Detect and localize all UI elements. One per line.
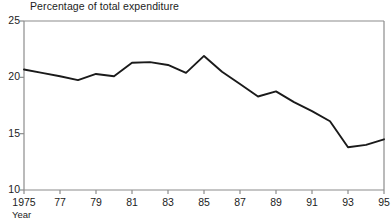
chart-plot-area — [0, 0, 392, 224]
x-tick-label: 91 — [306, 196, 318, 208]
x-tick-label: 87 — [234, 196, 246, 208]
x-tick-label: 95 — [378, 196, 390, 208]
y-tick-label: 25 — [0, 14, 20, 26]
axis-frame — [24, 21, 384, 190]
y-tick-label: 10 — [0, 183, 20, 195]
x-tick-label: 81 — [126, 196, 138, 208]
x-tick-label: 93 — [342, 196, 354, 208]
y-tick-label: 20 — [0, 70, 20, 82]
x-tick-label: 83 — [162, 196, 174, 208]
y-tick-label: 15 — [0, 127, 20, 139]
x-axis-title: Year — [12, 209, 31, 220]
chart-container: Percentage of total expenditure 10152025… — [0, 0, 392, 224]
x-axis-ticks — [24, 190, 384, 194]
x-tick-label: 79 — [90, 196, 102, 208]
x-tick-label: 77 — [54, 196, 66, 208]
x-tick-label: 1975 — [12, 196, 35, 208]
x-tick-label: 85 — [198, 196, 210, 208]
x-tick-label: 89 — [270, 196, 282, 208]
data-series-line — [24, 56, 384, 147]
